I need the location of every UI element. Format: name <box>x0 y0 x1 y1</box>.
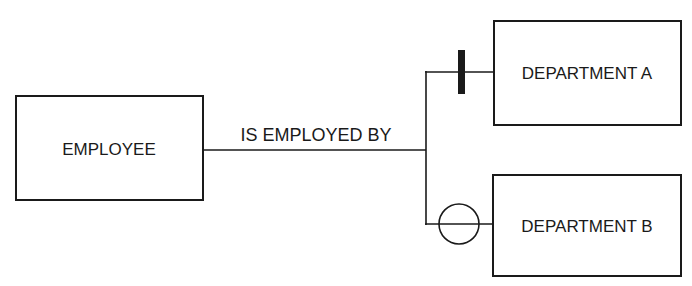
entity-department-b[interactable]: DEPARTMENT B <box>493 175 681 276</box>
entity-employee-label: EMPLOYEE <box>62 140 156 159</box>
entity-department-b-label: DEPARTMENT B <box>521 217 652 236</box>
entity-department-a[interactable]: DEPARTMENT A <box>494 21 681 125</box>
er-diagram: EMPLOYEE IS EMPLOYED BY DEPARTMENT A DEP… <box>0 0 692 286</box>
entity-department-a-label: DEPARTMENT A <box>522 64 653 83</box>
relationship-label: IS EMPLOYED BY <box>240 125 391 145</box>
entity-employee[interactable]: EMPLOYEE <box>16 96 203 200</box>
cardinality-bar-icon <box>458 50 465 94</box>
relationship-connector <box>203 71 494 225</box>
